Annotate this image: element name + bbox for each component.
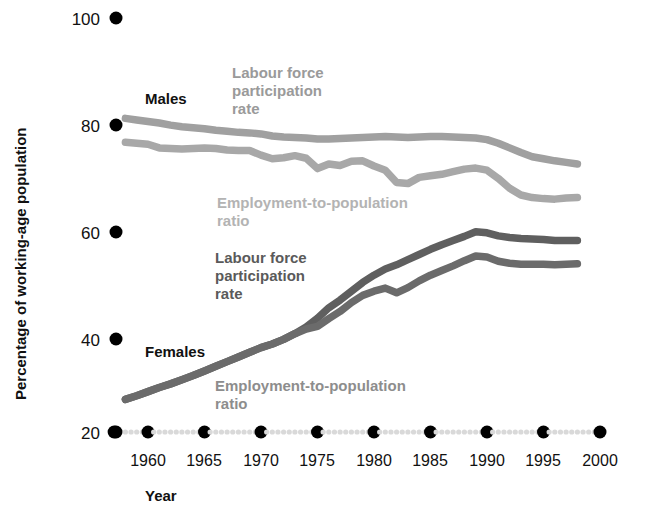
x-axis-minor-dot bbox=[456, 429, 461, 434]
x-axis-minor-dot bbox=[230, 429, 235, 434]
annotation-line: Employment-to-population bbox=[215, 377, 406, 394]
annotation-females-epr: Employment-to-population ratio bbox=[215, 377, 406, 412]
x-axis-minor-dot bbox=[462, 429, 467, 434]
x-axis-minor-dot bbox=[225, 429, 230, 434]
line-males-labour-force-participation-rate bbox=[125, 118, 577, 164]
x-tick-label: 1975 bbox=[299, 452, 335, 469]
x-axis-minor-dot bbox=[439, 429, 444, 434]
x-tick-label: 2000 bbox=[582, 452, 618, 469]
x-axis-minor-dot bbox=[518, 429, 523, 434]
x-axis-minor-dot bbox=[275, 429, 280, 434]
x-axis-minor-dot bbox=[467, 429, 472, 434]
x-axis-minor-dot bbox=[304, 429, 309, 434]
annotation-males-lfp: Labour force participation rate bbox=[232, 64, 324, 117]
x-axis-major-dot bbox=[594, 426, 607, 439]
x-axis-minor-dot bbox=[191, 429, 196, 434]
x-axis-dotted-baseline bbox=[108, 426, 607, 439]
x-axis-minor-dot bbox=[264, 429, 269, 434]
annotation-line: Labour force bbox=[215, 249, 307, 266]
x-axis-minor-dot bbox=[174, 429, 179, 434]
x-axis-origin-dot bbox=[108, 426, 121, 439]
x-axis-minor-dot bbox=[417, 429, 422, 434]
x-axis-minor-dot bbox=[270, 429, 275, 434]
x-axis-minor-dot bbox=[524, 429, 529, 434]
y-tick-100: 100 bbox=[72, 10, 123, 29]
x-axis-minor-dot bbox=[338, 429, 343, 434]
x-axis-minor-dot bbox=[575, 429, 580, 434]
y-tick-40: 40 bbox=[81, 331, 122, 350]
x-axis-minor-dot bbox=[586, 429, 591, 434]
annotation-line: participation bbox=[215, 267, 305, 284]
annotation-females-lfp: Labour force participation rate bbox=[215, 249, 307, 302]
x-axis-minor-dot bbox=[219, 429, 224, 434]
x-axis-minor-dot bbox=[213, 429, 218, 434]
x-axis-minor-dot bbox=[501, 429, 506, 434]
x-axis-minor-dot bbox=[208, 429, 213, 434]
y-tick-label: 40 bbox=[81, 331, 100, 350]
x-axis-minor-dot bbox=[343, 429, 348, 434]
y-axis: 100 80 60 40 20 bbox=[72, 10, 123, 443]
x-axis-minor-dot bbox=[580, 429, 585, 434]
x-axis-minor-dot bbox=[326, 429, 331, 434]
x-axis-minor-dot bbox=[162, 429, 167, 434]
x-axis-title: Year bbox=[145, 487, 177, 504]
y-tick-60: 60 bbox=[81, 224, 122, 243]
annotation-line: rate bbox=[232, 100, 260, 117]
x-axis-minor-dot bbox=[151, 429, 156, 434]
y-axis-title: Percentage of working-age population bbox=[12, 127, 29, 400]
x-axis-minor-dot bbox=[241, 429, 246, 434]
line-chart-svg: 100 80 60 40 20 Percentage of working-ag… bbox=[0, 0, 647, 525]
x-axis-minor-dot bbox=[445, 429, 450, 434]
x-axis-minor-dot bbox=[292, 429, 297, 434]
x-axis-minor-dot bbox=[530, 429, 535, 434]
x-axis-minor-dot bbox=[451, 429, 456, 434]
x-axis-minor-dot bbox=[552, 429, 557, 434]
x-tick-label: 1970 bbox=[243, 452, 279, 469]
group-label-females: Females bbox=[145, 343, 205, 360]
x-axis-minor-dot bbox=[496, 429, 501, 434]
x-axis-minor-dot bbox=[360, 429, 365, 434]
y-tick-dot bbox=[110, 12, 123, 25]
x-axis-minor-dot bbox=[185, 429, 190, 434]
x-axis-minor-dot bbox=[411, 429, 416, 434]
annotation-line: rate bbox=[215, 285, 243, 302]
x-axis-minor-dot bbox=[321, 429, 326, 434]
x-axis-minor-dot bbox=[134, 429, 139, 434]
x-axis-minor-dot bbox=[236, 429, 241, 434]
x-axis-minor-dot bbox=[400, 429, 405, 434]
x-axis-minor-dot bbox=[349, 429, 354, 434]
x-tick-label: 1995 bbox=[525, 452, 561, 469]
x-tick-label: 1965 bbox=[186, 452, 222, 469]
annotation-line: Labour force bbox=[232, 64, 324, 81]
x-axis-minor-dot bbox=[128, 429, 133, 434]
x-axis-minor-dot bbox=[405, 429, 410, 434]
x-axis-minor-dot bbox=[507, 429, 512, 434]
x-axis-minor-dot bbox=[354, 429, 359, 434]
x-axis-minor-dot bbox=[394, 429, 399, 434]
annotation-line: participation bbox=[232, 82, 322, 99]
annotation-line: ratio bbox=[217, 212, 250, 229]
x-axis-minor-dot bbox=[434, 429, 439, 434]
x-axis-minor-dot bbox=[490, 429, 495, 434]
x-axis-minor-dot bbox=[383, 429, 388, 434]
x-axis-minor-dot bbox=[377, 429, 382, 434]
x-axis-minor-dot bbox=[332, 429, 337, 434]
x-axis-minor-dot bbox=[281, 429, 286, 434]
x-axis-minor-dot bbox=[247, 429, 252, 434]
y-tick-label: 80 bbox=[81, 117, 100, 136]
x-axis-minor-dot bbox=[123, 429, 128, 434]
y-tick-80: 80 bbox=[81, 117, 122, 136]
annotation-males-epr: Employment-to-population ratio bbox=[217, 194, 408, 229]
x-axis-minor-dot bbox=[298, 429, 303, 434]
y-tick-dot bbox=[110, 119, 123, 132]
x-axis-minor-dot bbox=[547, 429, 552, 434]
x-axis-minor-dot bbox=[564, 429, 569, 434]
x-axis-minor-dot bbox=[558, 429, 563, 434]
x-axis-minor-dot bbox=[513, 429, 518, 434]
y-tick-dot bbox=[110, 333, 123, 346]
y-tick-dot bbox=[110, 226, 123, 239]
x-axis-minor-dot bbox=[168, 429, 173, 434]
x-axis-minor-dot bbox=[473, 429, 478, 434]
y-tick-label: 60 bbox=[81, 224, 100, 243]
x-axis-labels: 1960 1965 1970 1975 1980 1985 1990 1995 … bbox=[130, 452, 618, 469]
